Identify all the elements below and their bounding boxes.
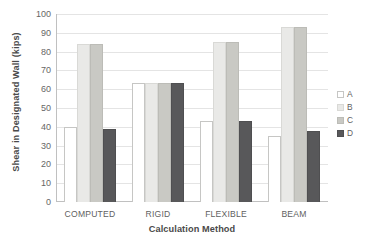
bar-group: FLEXIBLE — [192, 14, 260, 202]
legend-item-d[interactable]: D — [337, 127, 371, 140]
bar-beam-a[interactable] — [268, 136, 281, 202]
bar-group: BEAM — [260, 14, 328, 202]
legend-item-a[interactable]: A — [337, 88, 371, 101]
bar-group-bars — [56, 14, 124, 202]
legend-swatch-icon — [337, 104, 344, 111]
bar-rigid-b[interactable] — [145, 83, 158, 202]
y-axis-title: Shear in Designated Wall (kips) — [11, 12, 21, 192]
bar-computed-a[interactable] — [64, 127, 77, 202]
y-axis-tick-label: 60 — [41, 84, 51, 94]
bar-flexible-b[interactable] — [213, 42, 226, 202]
legend-swatch-icon — [337, 117, 344, 124]
chart-legend: ABCD — [337, 88, 371, 140]
bar-computed-c[interactable] — [90, 44, 103, 202]
legend-item-b[interactable]: B — [337, 101, 371, 114]
legend-swatch-icon — [337, 91, 344, 98]
bar-rigid-a[interactable] — [132, 83, 145, 202]
y-axis-tick-label: 0 — [46, 197, 51, 207]
y-axis-tick-label: 10 — [41, 178, 51, 188]
bar-beam-c[interactable] — [294, 27, 307, 202]
x-axis-category-label: FLEXIBLE — [192, 209, 260, 219]
legend-swatch-icon — [337, 130, 344, 137]
bar-computed-b[interactable] — [77, 44, 90, 202]
legend-label: B — [347, 103, 353, 111]
y-axis-tick-label: 40 — [41, 122, 51, 132]
legend-item-c[interactable]: C — [337, 114, 371, 127]
legend-label: D — [347, 129, 353, 137]
bar-beam-d[interactable] — [307, 131, 320, 202]
bar-group: RIGID — [124, 14, 192, 202]
legend-label: C — [347, 116, 353, 124]
y-axis-tick-label: 100 — [36, 9, 51, 19]
bar-group-bars — [124, 14, 192, 202]
bar-rigid-c[interactable] — [158, 83, 171, 202]
x-axis-title: Calculation Method — [56, 224, 328, 234]
y-axis-tick-label: 70 — [41, 65, 51, 75]
y-axis-tick-label: 20 — [41, 159, 51, 169]
bar-computed-d[interactable] — [103, 129, 116, 202]
y-axis-tick-label: 50 — [41, 103, 51, 113]
y-axis-tick-label: 80 — [41, 47, 51, 57]
plot-area: 1009080706050403020100 COMPUTEDRIGIDFLEX… — [56, 14, 328, 202]
x-axis-category-label: BEAM — [260, 209, 328, 219]
legend-label: A — [347, 90, 353, 98]
y-axis-tick-label: 90 — [41, 28, 51, 38]
bar-flexible-d[interactable] — [239, 121, 252, 202]
bar-beam-b[interactable] — [281, 27, 294, 202]
bar-group: COMPUTED — [56, 14, 124, 202]
x-axis-category-label: COMPUTED — [56, 209, 124, 219]
y-axis-tick-label: 30 — [41, 141, 51, 151]
bar-group-bars — [192, 14, 260, 202]
x-axis-category-label: RIGID — [124, 209, 192, 219]
bar-flexible-c[interactable] — [226, 42, 239, 202]
bar-group-bars — [260, 14, 328, 202]
bar-rigid-d[interactable] — [171, 83, 184, 202]
bar-flexible-a[interactable] — [200, 121, 213, 202]
bar-chart: Shear in Designated Wall (kips) 10090807… — [0, 0, 373, 245]
